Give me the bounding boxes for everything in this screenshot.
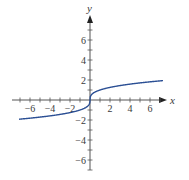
x-tick-label: −6 — [25, 103, 36, 114]
x-axis-label: x — [169, 94, 175, 106]
y-axis-arrow-icon — [87, 15, 93, 23]
y-axis-label: y — [86, 2, 92, 14]
x-tick-label: 4 — [128, 103, 133, 114]
y-tick-label: 6 — [81, 35, 86, 46]
y-tick-label: −6 — [75, 155, 86, 166]
y-tick-label: −2 — [75, 115, 86, 126]
y-tick-label: 2 — [81, 75, 86, 86]
axes — [12, 15, 167, 170]
y-tick-label: −4 — [75, 135, 86, 146]
x-tick-label: 2 — [108, 103, 113, 114]
y-tick-label: 4 — [81, 55, 86, 66]
chart-plot: −6−4−2246642−2−4−6 x y — [0, 0, 189, 180]
x-tick-label: −4 — [45, 103, 56, 114]
x-tick-label: 6 — [148, 103, 153, 114]
